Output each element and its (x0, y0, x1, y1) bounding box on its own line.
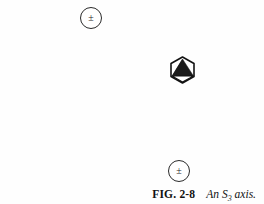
caption-text-after-subscript: axis. (232, 188, 256, 200)
tetrahedron-molecule-figure (169, 56, 196, 84)
plus-minus-sign-icon: ± (81, 8, 101, 28)
axis-point-marker-bottom: ± (168, 160, 190, 182)
caption-text-before-subscript: An S (206, 188, 227, 200)
tetrahedron-hexagon-icon (169, 56, 196, 84)
figure-caption: FIG. 2-8An S3 axis. (0, 187, 256, 201)
figure-page: ± ± FIG. 2-8An S3 axis. (0, 0, 264, 204)
plus-minus-sign-icon: ± (169, 161, 189, 181)
figure-number-label: FIG. 2-8 (152, 188, 195, 200)
axis-point-marker-top: ± (80, 7, 102, 29)
